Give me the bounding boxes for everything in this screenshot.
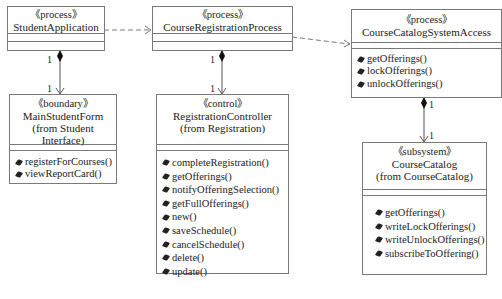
operation-item: unlockOfferings() — [358, 78, 501, 90]
public-operation-icon — [162, 173, 170, 180]
stereotype-label: 《control》 — [157, 98, 288, 110]
operation-item: completeRegistration() — [163, 156, 288, 170]
class-name: CourseCatalog — [363, 158, 486, 170]
class-main-student-form[interactable]: 《boundary》 MainStudentForm (from Student… — [9, 94, 117, 184]
composition-diamond-icon — [219, 50, 225, 62]
public-operation-icon — [357, 56, 365, 63]
public-operation-icon — [357, 68, 365, 75]
package-label: (from Student Interface) — [10, 122, 116, 146]
class-course-catalog[interactable]: 《subsystem》 CourseCatalog (from CourseCa… — [362, 142, 487, 275]
operation-item: lockOfferings() — [358, 65, 501, 77]
public-operation-icon — [162, 187, 170, 194]
public-operation-icon — [162, 241, 170, 248]
operation-item: getOfferings() — [376, 206, 486, 220]
operation-item: update() — [163, 265, 288, 279]
stereotype-label: 《process》 — [8, 9, 104, 21]
public-operation-icon — [162, 159, 170, 166]
public-operation-icon — [162, 200, 170, 207]
class-course-registration-process[interactable]: 《process》 CourseRegistrationProcess — [152, 6, 293, 51]
public-operation-icon — [15, 159, 23, 166]
dependency-arrowhead-icon — [344, 40, 350, 47]
public-operation-icon — [375, 223, 383, 230]
operation-item: writeUnlockOfferings() — [376, 233, 486, 247]
public-operation-icon — [375, 250, 383, 257]
operation-item: getOfferings() — [163, 170, 288, 184]
operation-item: viewReportCard() — [16, 168, 116, 180]
public-operation-icon — [357, 81, 365, 88]
composition-diamond-icon — [57, 50, 63, 62]
class-course-catalog-system-access[interactable]: 《process》 CourseCatalogSystemAccess getO… — [351, 9, 502, 98]
operation-item: delete() — [163, 251, 288, 265]
operation-item: getOfferings() — [358, 53, 501, 65]
stereotype-label: 《process》 — [352, 14, 501, 26]
operation-item: subscribeToOffering() — [376, 247, 486, 261]
multiplicity-label: 1 — [210, 84, 215, 94]
operation-item: cancelSchedule() — [163, 238, 288, 252]
stereotype-label: 《process》 — [153, 9, 292, 21]
package-label: (from CourseCatalog) — [363, 170, 486, 182]
multiplicity-label: 1 — [429, 131, 434, 141]
multiplicity-label: 1 — [210, 55, 215, 65]
public-operation-icon — [375, 209, 383, 216]
stereotype-label: 《boundary》 — [10, 98, 116, 110]
operation-item: saveSchedule() — [163, 224, 288, 238]
operation-item: notifyOfferingSelection() — [163, 183, 288, 197]
multiplicity-label: 1 — [429, 100, 434, 110]
public-operation-icon — [162, 268, 170, 275]
class-registration-controller[interactable]: 《control》 RegistrationController (from R… — [156, 94, 289, 274]
operation-item: registerForCourses() — [16, 156, 116, 168]
multiplicity-label: 1 — [47, 55, 52, 65]
public-operation-icon — [375, 236, 383, 243]
class-name: StudentApplication — [8, 21, 104, 33]
stereotype-label: 《subsystem》 — [363, 146, 486, 158]
class-student-application[interactable]: 《process》 StudentApplication — [7, 6, 105, 51]
public-operation-icon — [162, 214, 170, 221]
package-label: (from Registration) — [157, 122, 288, 134]
class-name: MainStudentForm — [10, 110, 116, 122]
multiplicity-label: 1 — [47, 84, 52, 94]
composition-diamond-icon — [421, 97, 427, 109]
class-name: CourseRegistrationProcess — [153, 21, 292, 33]
dependency-line-crp-ccsa — [292, 37, 349, 44]
operation-item: new() — [163, 210, 288, 224]
public-operation-icon — [162, 227, 170, 234]
class-name: CourseCatalogSystemAccess — [352, 26, 501, 38]
operation-item: getFullOfferings() — [163, 197, 288, 211]
public-operation-icon — [162, 255, 170, 262]
public-operation-icon — [15, 171, 23, 178]
operation-item: writeLockOfferings() — [376, 220, 486, 234]
class-name: RegistrationController — [157, 110, 288, 122]
